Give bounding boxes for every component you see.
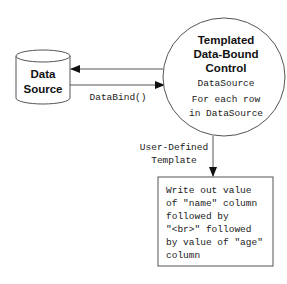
control-loop-line2: in DataSource <box>189 108 263 119</box>
template-line: "<br>" followed <box>166 224 252 235</box>
databind-label: DataBind() <box>89 92 146 103</box>
control-property: DataSource <box>197 78 254 89</box>
diagram-canvas: Data Source DataBind() Templated Data-Bo… <box>0 0 287 284</box>
templated-control-ellipse: Templated Data-Bound Control DataSource … <box>163 18 285 136</box>
data-source-label-line1: Data <box>31 68 57 80</box>
template-line: column <box>166 250 200 261</box>
control-loop-line1: For each row <box>192 94 261 105</box>
template-label-line2: Template <box>151 155 197 166</box>
template-line: of "name" column <box>166 198 257 209</box>
template-box: Write out value of "name" column followe… <box>158 177 273 266</box>
control-title-line1: Templated <box>198 34 255 46</box>
data-source-cylinder: Data Source <box>16 50 70 104</box>
data-source-label-line2: Source <box>24 83 63 95</box>
template-line: followed by <box>166 211 229 222</box>
template-line: by value of "age" <box>166 237 263 248</box>
template-line: Write out value <box>166 185 252 196</box>
template-label-line1: User-Defined <box>140 142 208 153</box>
control-title-line3: Control <box>206 62 247 74</box>
control-title-line2: Data-Bound <box>193 48 258 60</box>
